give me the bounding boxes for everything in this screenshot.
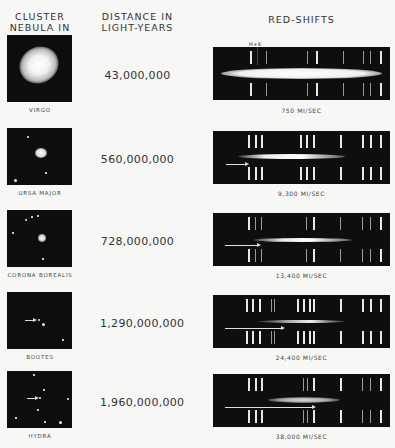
spectrum-hydra [213, 374, 390, 427]
row-corona-borealis: CORONA BOREALIS 728,000,000 13,400 MI/SE… [0, 210, 395, 296]
galaxy-photo-ursa-major [7, 128, 72, 185]
galaxy-photo-bootes [7, 292, 72, 349]
header-redshifts: RED-SHIFTS [213, 14, 390, 25]
spectrum-bootes [213, 295, 390, 348]
spectrum-corona-borealis [213, 213, 390, 266]
row-hydra: HYDRA 1,960,000,000 38,000 MI/SEC [0, 371, 395, 448]
velocity-value: 38,000 MI/SEC [213, 433, 390, 440]
cluster-name: HYDRA [0, 433, 80, 439]
header-cluster-line1: CLUSTER [0, 11, 80, 22]
distance-value: 560,000,000 [100, 153, 175, 166]
velocity-value: 13,400 MI/SEC [213, 272, 390, 279]
galaxy-photo-virgo [7, 35, 72, 102]
spectrum-ursa-major [213, 131, 390, 184]
distance-value: 728,000,000 [100, 235, 175, 248]
cluster-name: VIRGO [0, 107, 80, 113]
header-distance-line1: DISTANCE IN [100, 11, 175, 22]
galaxy-photo-hydra [7, 371, 72, 428]
header-distance-line2: LIGHT-YEARS [100, 22, 175, 33]
cluster-name: BOOTES [0, 354, 80, 360]
header-cluster-line2: NEBULA IN [0, 22, 80, 33]
hk-pointer [257, 47, 258, 65]
velocity-value: 24,400 MI/SEC [213, 354, 390, 361]
velocity-value: 9,300 MI/SEC [213, 190, 390, 197]
galaxy-photo-corona-borealis [7, 210, 72, 267]
distance-value: 1,290,000,000 [100, 317, 175, 330]
row-ursa-major: URSA MAJOR 560,000,000 9,300 MI/SEC [0, 128, 395, 214]
header-distance: DISTANCE IN LIGHT-YEARS [100, 11, 175, 33]
distance-value: 43,000,000 [100, 69, 175, 82]
hk-label: H+K [249, 41, 262, 47]
cluster-name: URSA MAJOR [0, 190, 80, 196]
distance-value: 1,960,000,000 [100, 396, 175, 409]
row-bootes: BOOTES 1,290,000,000 24,400 MI/SEC [0, 292, 395, 378]
spectrum-virgo [213, 47, 390, 100]
row-virgo: VIRGO 43,000,000 750 MI/SEC [0, 35, 395, 121]
cluster-name: CORONA BOREALIS [0, 272, 80, 278]
velocity-value: 750 MI/SEC [213, 107, 390, 114]
header-cluster-nebula: CLUSTER NEBULA IN [0, 11, 80, 33]
